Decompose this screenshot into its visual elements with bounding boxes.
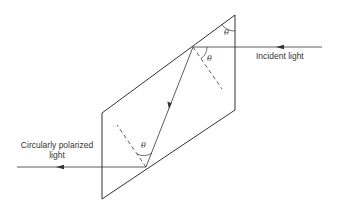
diagram-svg: θ θ θ Incident light Circularly polarize… bbox=[0, 0, 342, 217]
theta-label-apex: θ bbox=[224, 28, 229, 37]
incident-arrowhead-icon bbox=[276, 45, 284, 49]
fresnel-rhomb-diagram: θ θ θ Incident light Circularly polarize… bbox=[0, 0, 342, 217]
theta-label-incidence-bottom: θ bbox=[141, 141, 146, 150]
rhomb-outline bbox=[102, 15, 235, 199]
output-arrowhead-icon bbox=[56, 165, 64, 169]
output-label-line1: Circularly polarized bbox=[21, 140, 94, 150]
output-label-line2: light bbox=[49, 150, 65, 160]
incident-light-label: Incident light bbox=[256, 51, 304, 61]
incidence-angle-arc-bottom bbox=[137, 153, 152, 156]
theta-label-incidence-top: θ bbox=[207, 54, 212, 63]
